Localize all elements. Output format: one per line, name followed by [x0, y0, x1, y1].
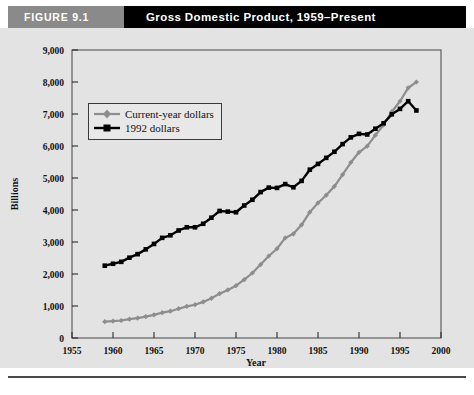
data-point-marker [291, 185, 296, 190]
data-point-marker [258, 190, 263, 195]
data-point-marker [406, 99, 411, 104]
y-tick-label: 4,000 [43, 206, 65, 216]
chart-legend: Current-year dollars 1992 dollars [88, 103, 222, 140]
data-point-marker [127, 317, 132, 322]
x-tick-label: 2000 [432, 346, 451, 356]
data-point-marker [308, 167, 313, 172]
x-axis-ticks: 1955196019651970197519801985199019952000 [63, 332, 451, 356]
y-tick-label: 9,000 [43, 46, 65, 56]
y-tick-label: 8,000 [43, 78, 65, 88]
y-tick-label: 1,000 [43, 302, 65, 312]
legend-label-1992-dollars: 1992 dollars [125, 122, 180, 134]
gdp-line-chart: 01,0002,0003,0004,0005,0006,0007,0008,00… [0, 28, 474, 368]
data-point-marker [168, 309, 173, 314]
legend-swatch-current-year-icon [94, 108, 120, 120]
data-point-marker [349, 135, 354, 140]
x-tick-label: 1960 [104, 346, 123, 356]
figure-number-tag: FIGURE 9.1 [8, 6, 124, 28]
data-point-marker [127, 255, 132, 260]
data-point-marker [143, 314, 148, 319]
data-point-marker [103, 263, 108, 268]
data-point-marker [414, 108, 419, 113]
data-point-marker [357, 132, 362, 137]
data-point-marker [390, 112, 395, 117]
data-point-marker [184, 304, 189, 309]
y-axis-ticks: 01,0002,0003,0004,0005,0006,0007,0008,00… [43, 46, 78, 344]
plot-border [72, 50, 441, 338]
legend-item-current-year: Current-year dollars [94, 107, 214, 121]
data-point-marker [111, 261, 116, 266]
x-tick-label: 1985 [309, 346, 328, 356]
x-tick-label: 1955 [63, 346, 82, 356]
y-tick-label: 7,000 [43, 110, 65, 120]
data-point-marker [209, 215, 214, 220]
y-tick-label: 6,000 [43, 142, 65, 152]
figure-title: Gross Domestic Product, 1959–Present [124, 6, 466, 28]
y-tick-label: 0 [59, 334, 64, 344]
data-point-marker [176, 306, 181, 311]
data-point-marker [119, 318, 124, 323]
data-point-marker [299, 179, 304, 184]
figure-canvas: 01,0002,0003,0004,0005,0006,0007,0008,00… [0, 28, 474, 368]
data-point-marker [168, 233, 173, 238]
data-point-marker [283, 182, 288, 187]
data-point-marker [234, 210, 239, 215]
y-tick-label: 2,000 [43, 270, 65, 280]
data-point-marker [332, 149, 337, 154]
data-point-marker [373, 126, 378, 131]
data-point-marker [110, 318, 115, 323]
bottom-divider [8, 376, 466, 378]
data-point-marker [176, 228, 181, 233]
figure-header: FIGURE 9.1 Gross Domestic Product, 1959–… [8, 6, 466, 28]
data-point-marker [192, 302, 197, 307]
data-point-marker [201, 221, 206, 226]
data-point-marker [250, 197, 255, 202]
x-tick-label: 1975 [227, 346, 246, 356]
data-point-marker [316, 162, 321, 167]
data-point-marker [160, 310, 165, 315]
legend-item-1992-dollars: 1992 dollars [94, 121, 214, 135]
x-tick-label: 1970 [186, 346, 205, 356]
data-point-marker [365, 132, 370, 137]
x-axis-title: Year [246, 357, 267, 368]
data-point-marker [267, 185, 272, 190]
x-tick-label: 1965 [145, 346, 164, 356]
data-point-marker [144, 247, 149, 252]
legend-label-current-year: Current-year dollars [125, 108, 214, 120]
data-point-marker [135, 252, 140, 257]
x-tick-label: 1995 [391, 346, 410, 356]
data-point-marker [381, 121, 386, 126]
data-point-marker [275, 186, 280, 191]
data-point-marker [324, 156, 329, 161]
data-point-marker [151, 312, 156, 317]
data-point-marker [160, 236, 165, 241]
y-tick-label: 5,000 [43, 174, 65, 184]
legend-swatch-1992-dollars-icon [94, 122, 120, 134]
data-point-marker [398, 107, 403, 112]
x-tick-label: 1990 [350, 346, 369, 356]
data-point-marker [119, 260, 124, 265]
data-point-marker [185, 225, 190, 230]
y-tick-label: 3,000 [43, 238, 65, 248]
data-point-marker [340, 142, 345, 147]
data-point-marker [193, 225, 198, 230]
data-point-marker [135, 315, 140, 320]
data-point-marker [102, 319, 107, 324]
x-tick-label: 1980 [268, 346, 287, 356]
data-point-marker [217, 209, 222, 214]
data-point-marker [152, 242, 157, 247]
y-axis-title: Billions [9, 178, 20, 210]
data-point-marker [242, 203, 247, 208]
data-point-marker [226, 209, 231, 214]
